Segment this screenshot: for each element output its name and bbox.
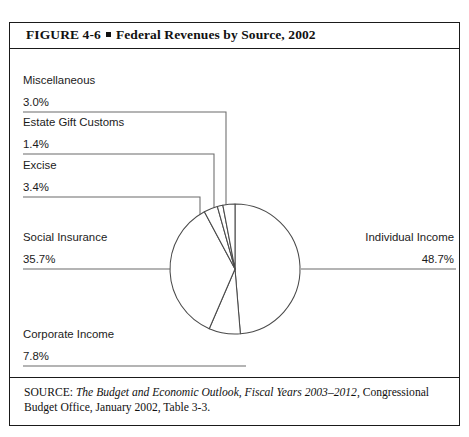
- figure-page: FIGURE 4-6Federal Revenues by Source, 20…: [0, 0, 469, 437]
- label-estate-gift-customs-name: Estate Gift Customs: [23, 116, 124, 128]
- label-social-insurance-name: Social Insurance: [23, 231, 107, 243]
- label-miscellaneous-value: 3.0%: [23, 96, 49, 108]
- label-excise-value: 3.4%: [23, 181, 49, 193]
- figure-title-bar: FIGURE 4-6Federal Revenues by Source, 20…: [10, 23, 459, 49]
- source-title: The Budget and Economic Outlook, Fiscal …: [76, 386, 357, 399]
- figure-title: Federal Revenues by Source, 2002: [116, 27, 316, 42]
- label-social-insurance-value: 35.7%: [23, 253, 55, 265]
- figure-source-bar: SOURCE: The Budget and Economic Outlook,…: [10, 377, 459, 425]
- label-miscellaneous-name: Miscellaneous: [23, 74, 95, 86]
- square-bullet-icon: [106, 32, 111, 37]
- leader-line-excise: [23, 197, 200, 227]
- pie-slice-individual-income[interactable]: [235, 204, 300, 334]
- source-prefix: SOURCE:: [24, 386, 73, 399]
- label-individual-income-value: 48.7%: [422, 253, 454, 265]
- source-note: SOURCE: The Budget and Economic Outlook,…: [24, 385, 447, 416]
- label-corporate-income-name: Corporate Income: [23, 328, 114, 340]
- label-individual-income-name: Individual Income: [365, 231, 454, 243]
- pie-slices-group: [170, 204, 300, 334]
- page-title: FIGURE 4-6Federal Revenues by Source, 20…: [26, 27, 316, 43]
- label-estate-gift-customs-value: 1.4%: [23, 138, 49, 150]
- figure-number: FIGURE 4-6: [26, 27, 101, 42]
- figure-frame: FIGURE 4-6Federal Revenues by Source, 20…: [9, 22, 460, 426]
- chart-area: Miscellaneous 3.0% Estate Gift Customs 1…: [10, 49, 459, 379]
- label-excise-name: Excise: [23, 159, 57, 171]
- label-corporate-income-value: 7.8%: [23, 350, 49, 362]
